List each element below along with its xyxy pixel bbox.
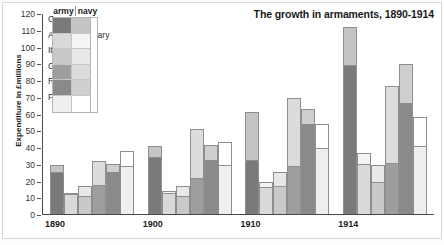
y-axis-tick-label: 10 xyxy=(0,193,35,203)
y-axis-tick-mark xyxy=(37,165,41,166)
bar-segment-navy xyxy=(176,186,190,195)
y-axis-tick-label: 70 xyxy=(0,93,35,103)
bar-segment-army xyxy=(148,157,162,214)
bar-segment-army xyxy=(245,160,259,214)
legend-row xyxy=(53,49,97,65)
stacked-bar xyxy=(385,86,399,214)
y-axis-tick-mark xyxy=(37,215,41,216)
bar-segment-army xyxy=(176,196,190,214)
bar-segment-army xyxy=(343,65,357,214)
bar-segment-army xyxy=(64,194,78,214)
stacked-bar xyxy=(204,145,218,214)
legend-swatch-navy xyxy=(72,65,91,81)
legend-col-army: army xyxy=(53,6,74,16)
bar-segment-navy xyxy=(245,112,259,160)
bar-group: 1910 xyxy=(239,14,337,214)
bar-segment-army xyxy=(50,172,64,214)
stacked-bar xyxy=(259,182,273,214)
stacked-bar xyxy=(120,151,134,214)
x-axis-tick-label: 1910 xyxy=(241,219,261,229)
bar-segment-navy xyxy=(92,161,106,184)
stacked-bar xyxy=(245,112,259,214)
bar-segment-army xyxy=(92,185,106,214)
bar-segment-navy xyxy=(120,151,134,166)
stacked-bar xyxy=(78,186,92,214)
y-axis-tick-mark xyxy=(37,131,41,132)
legend-swatch-army xyxy=(53,96,72,112)
bar-segment-army xyxy=(315,148,329,214)
stacked-bar xyxy=(148,146,162,214)
bar-segment-army xyxy=(301,124,315,214)
legend-swatch-army xyxy=(53,49,72,65)
legend-swatch-navy xyxy=(72,80,91,96)
legend-swatch-army xyxy=(53,65,72,81)
bar-segment-army xyxy=(273,186,287,214)
bar-segment-army xyxy=(357,164,371,214)
bar-segment-army xyxy=(413,146,427,214)
stacked-bar xyxy=(413,117,427,214)
bar-segment-army xyxy=(120,166,134,214)
legend-col-navy: navy xyxy=(77,6,98,16)
stacked-bar xyxy=(371,165,385,214)
bar-segment-navy xyxy=(357,153,371,164)
legend-swatch-navy xyxy=(72,18,91,34)
bar-segment-navy xyxy=(106,164,120,172)
bar-segment-navy xyxy=(50,165,64,172)
stacked-bar xyxy=(50,165,64,214)
bar-segment-navy xyxy=(343,27,357,65)
stacked-bar xyxy=(399,64,413,214)
y-axis-tick-label: 110 xyxy=(0,26,35,36)
bar-segment-navy xyxy=(315,124,329,148)
bar-segment-army xyxy=(162,193,176,214)
legend-header: army navy xyxy=(52,6,98,16)
y-axis-tick-mark xyxy=(37,148,41,149)
y-axis-tick-label: 60 xyxy=(0,110,35,120)
bar-segment-navy xyxy=(385,86,399,163)
bar-segment-army xyxy=(218,165,232,214)
bar-group: 1914 xyxy=(336,14,434,214)
bar-segment-army xyxy=(371,182,385,214)
stacked-bar xyxy=(315,124,329,214)
stacked-bar xyxy=(357,153,371,214)
bar-segment-army xyxy=(385,163,399,214)
bar-segment-army xyxy=(399,103,413,214)
legend-swatch-navy xyxy=(72,96,91,112)
legend-swatch-army xyxy=(53,34,72,50)
bar-segment-navy xyxy=(273,172,287,185)
bar-segment-army xyxy=(204,160,218,214)
y-axis-tick-label: 0 xyxy=(0,210,35,220)
legend-swatch-navy xyxy=(72,34,91,50)
y-axis-tick-label: 80 xyxy=(0,76,35,86)
legend-divider xyxy=(75,6,76,16)
legend-row xyxy=(53,65,97,81)
legend: army navy xyxy=(52,6,98,113)
y-axis-tick-mark xyxy=(37,182,41,183)
y-axis-tick-label: 90 xyxy=(0,59,35,69)
legend-swatch-army xyxy=(53,18,72,34)
chart-screenshot: The growth in armaments, 1890-1914 Expen… xyxy=(0,0,444,245)
bar-segment-navy xyxy=(413,117,427,146)
bar-segment-navy xyxy=(78,186,92,195)
y-axis-tick-label: 50 xyxy=(0,126,35,136)
bar-segment-army xyxy=(287,166,301,214)
y-axis-tick-label: 20 xyxy=(0,177,35,187)
bar-segment-navy xyxy=(148,146,162,157)
x-axis-tick-label: 1890 xyxy=(45,219,65,229)
stacked-bar xyxy=(218,142,232,214)
y-axis-tick-mark xyxy=(37,198,41,199)
legend-swatch-army xyxy=(53,80,72,96)
stacked-bar xyxy=(301,109,315,214)
bar-segment-navy xyxy=(371,165,385,183)
stacked-bar xyxy=(92,161,106,214)
stacked-bar xyxy=(106,164,120,214)
bar-segment-army xyxy=(78,196,92,214)
stacked-bar xyxy=(162,191,176,214)
bar-segment-navy xyxy=(204,145,218,159)
y-axis-tick-label: 30 xyxy=(0,160,35,170)
bar-segment-army xyxy=(190,178,204,214)
stacked-bar xyxy=(287,98,301,214)
legend-swatch-navy xyxy=(72,49,91,65)
bar-segment-navy xyxy=(399,64,413,103)
bar-segment-navy xyxy=(301,109,315,124)
x-axis-tick-label: 1900 xyxy=(143,219,163,229)
